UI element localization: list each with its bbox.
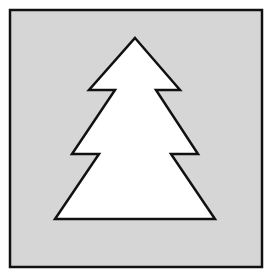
figure-canvas: [0, 0, 273, 277]
